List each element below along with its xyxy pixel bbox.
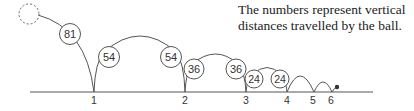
bounce-number: 5 <box>310 94 316 106</box>
svg-text:24: 24 <box>274 73 286 85</box>
bounce-number: 3 <box>243 94 249 106</box>
svg-text:54: 54 <box>103 51 115 63</box>
bounce-number: 4 <box>284 94 290 106</box>
bounce-number: 1 <box>91 94 97 106</box>
distance-label: 54 <box>161 47 182 68</box>
distance-label: 24 <box>245 70 263 88</box>
bounce-arc-4 <box>287 76 314 92</box>
svg-text:36: 36 <box>188 63 200 75</box>
distance-label: 36 <box>226 59 246 79</box>
final-ball <box>335 85 339 89</box>
caption-line-1: The numbers represent vertical <box>238 2 414 18</box>
distance-label: 81 <box>60 24 81 45</box>
distance-label: 36 <box>184 59 204 79</box>
svg-text:24: 24 <box>248 73 260 85</box>
distance-label: 24 <box>271 70 289 88</box>
svg-text:54: 54 <box>165 51 177 63</box>
distance-label: 54 <box>99 47 120 68</box>
svg-text:36: 36 <box>230 63 242 75</box>
svg-text:81: 81 <box>64 28 76 40</box>
start-ball <box>19 4 39 24</box>
bounce-number: 2 <box>182 94 188 106</box>
bounce-arc-5 <box>314 82 332 92</box>
bounce-number: 6 <box>328 94 334 106</box>
caption: The numbers represent vertical distances… <box>238 2 414 34</box>
caption-line-2: distances travelled by the ball. <box>238 18 414 34</box>
